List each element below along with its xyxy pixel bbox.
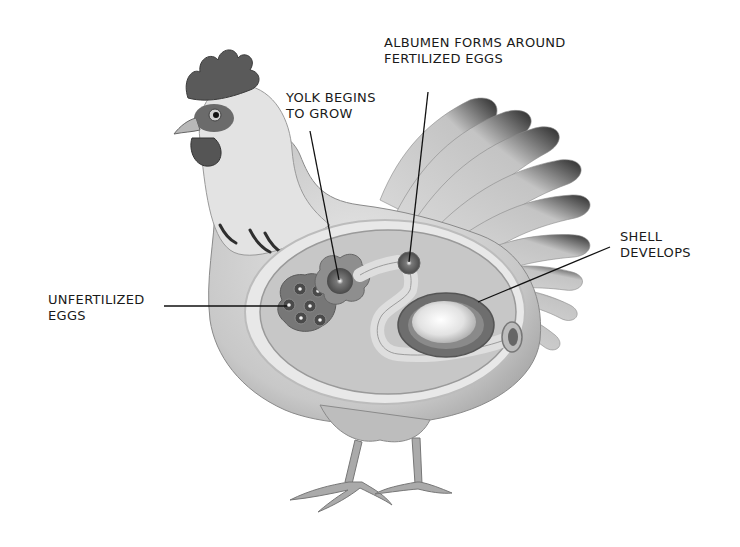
label-shell: SHELL DEVELOPS — [620, 229, 691, 261]
hen-diagram: ALBUMEN FORMS AROUND FERTILIZED EGGS YOL… — [0, 0, 740, 547]
hen-legs — [290, 438, 452, 512]
label-yolk-line1: YOLK BEGINS — [286, 90, 376, 106]
label-shell-line2: DEVELOPS — [620, 245, 691, 261]
developing-egg — [412, 301, 476, 343]
hen-wattle — [191, 138, 221, 166]
hen-illustration — [0, 0, 740, 547]
label-albumen: ALBUMEN FORMS AROUND FERTILIZED EGGS — [384, 35, 566, 67]
albumen-egg — [398, 252, 420, 274]
label-shell-line1: SHELL — [620, 229, 691, 245]
label-unfertilized-line2: EGGS — [48, 308, 145, 324]
label-yolk-line2: TO GROW — [286, 106, 376, 122]
label-unfertilized: UNFERTILIZED EGGS — [48, 292, 145, 324]
label-albumen-line1: ALBUMEN FORMS AROUND — [384, 35, 566, 51]
hen-beak — [174, 118, 200, 134]
label-albumen-line2: FERTILIZED EGGS — [384, 51, 566, 67]
label-unfertilized-line1: UNFERTILIZED — [48, 292, 145, 308]
label-yolk: YOLK BEGINS TO GROW — [286, 90, 376, 122]
